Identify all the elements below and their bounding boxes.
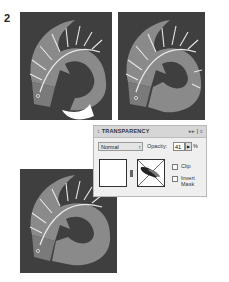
panel-title-bar[interactable]: ↕ TRANSPARENCY ▸▸ | ≡	[94, 126, 206, 138]
invert-mask-label: Invert Mask	[181, 175, 206, 187]
fish-artwork-2	[118, 12, 205, 120]
opacity-label: Opacity:	[147, 143, 167, 149]
mask-link-icon[interactable]	[130, 170, 133, 177]
object-thumbnail[interactable]	[99, 159, 127, 187]
clip-checkbox[interactable]	[172, 164, 178, 170]
panel-menu-icon[interactable]: ▸▸ | ≡	[189, 126, 203, 137]
opacity-input[interactable]: 41	[173, 142, 185, 151]
percent-label: %	[193, 143, 198, 149]
fish-illustration	[118, 12, 205, 120]
blend-mode-dropdown[interactable]: Normal ↕	[98, 142, 143, 151]
panel-title: ↕ TRANSPARENCY	[97, 128, 150, 134]
blend-mode-value: Normal	[101, 144, 119, 150]
fish-illustration	[20, 12, 112, 120]
opacity-slider-button[interactable]: ▶	[185, 142, 192, 151]
dropdown-arrow-icon: ↕	[139, 143, 142, 151]
mask-preview	[138, 160, 164, 186]
invert-mask-checkbox[interactable]	[172, 176, 178, 182]
transparency-panel: ↕ TRANSPARENCY ▸▸ | ≡ Normal ↕ Opacity: …	[93, 125, 207, 197]
fish-artwork-1	[20, 12, 112, 120]
mask-thumbnail[interactable]	[137, 159, 165, 187]
step-number: 2	[4, 12, 10, 24]
clip-label: Clip	[181, 163, 190, 169]
